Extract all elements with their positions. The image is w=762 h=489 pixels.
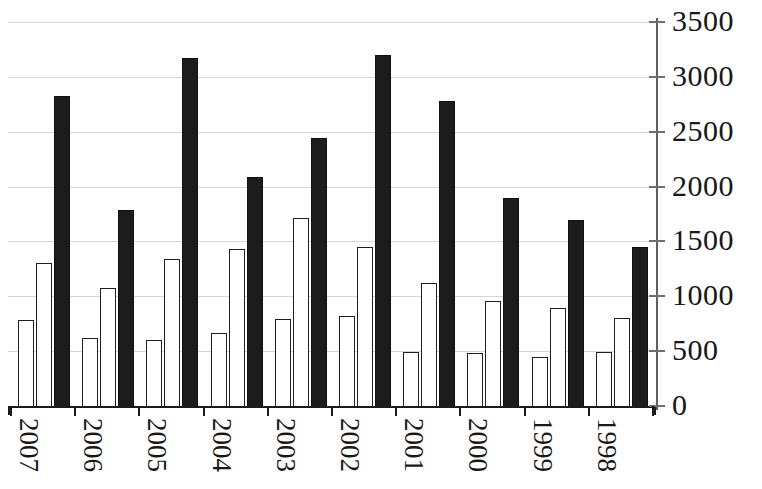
bar	[532, 357, 548, 406]
bar	[229, 249, 245, 406]
bar	[247, 177, 263, 406]
bar	[164, 259, 180, 406]
bar	[118, 210, 134, 406]
bar	[550, 308, 566, 406]
x-axis-tick-label-text: 1999	[529, 418, 556, 472]
x-axis-tick-label-text: 2005	[143, 418, 170, 472]
bar	[467, 353, 483, 406]
x-axis-tick-label-text: 2000	[464, 418, 491, 472]
bar	[375, 55, 391, 406]
x-axis-tick-label-text: 2002	[336, 418, 363, 472]
bar	[439, 101, 455, 406]
x-axis-tick-label: 2001	[401, 418, 431, 488]
bar	[614, 318, 630, 406]
y-axis-tick-label: 0	[672, 390, 688, 420]
y-axis-tick-label: 500	[672, 335, 719, 365]
bar	[357, 247, 373, 406]
y-axis-line	[656, 18, 658, 410]
y-axis-tick-label: 2000	[672, 171, 734, 201]
bar	[146, 340, 162, 406]
x-axis-tick-label-text: 2006	[79, 418, 106, 472]
bar	[36, 263, 52, 406]
x-axis-tick-label: 2005	[144, 418, 174, 488]
plot-area	[8, 22, 656, 406]
x-axis-tick-label: 2007	[16, 418, 46, 488]
y-axis-tick-label: 1000	[672, 280, 734, 310]
x-axis-tick-label-text: 2001	[400, 418, 427, 472]
x-axis-tick-label-text: 2007	[15, 418, 42, 472]
bar	[275, 319, 291, 406]
x-axis-line	[8, 406, 656, 408]
bar	[82, 338, 98, 406]
bar	[54, 96, 70, 406]
y-axis-tick-label: 2500	[672, 116, 734, 146]
x-axis-tick-label: 2004	[209, 418, 239, 488]
x-axis-tick-label: 2003	[273, 418, 303, 488]
bar	[485, 301, 501, 406]
bar	[503, 198, 519, 406]
bar	[339, 316, 355, 406]
bar	[293, 218, 309, 406]
bar	[403, 352, 419, 406]
bar-chart: 0500100015002000250030003500 20072006200…	[0, 0, 762, 489]
y-axis-tick-label: 3000	[672, 61, 734, 91]
x-axis-tick-label: 2000	[465, 418, 495, 488]
x-axis-tick-label: 1999	[530, 418, 560, 488]
y-axis-tick-label: 1500	[672, 225, 734, 255]
y-axis-tick-label: 3500	[672, 6, 734, 36]
x-axis-tick-label-text: 2003	[272, 418, 299, 472]
bar	[596, 352, 612, 406]
bar	[100, 288, 116, 406]
x-axis-tick-label: 1998	[594, 418, 624, 488]
x-axis-tick-label: 2002	[337, 418, 367, 488]
bar	[632, 247, 648, 406]
x-axis-tick-label-text: 2004	[208, 418, 235, 472]
x-axis-tick-label-text: 1998	[593, 418, 620, 472]
x-axis-tick-label: 2006	[80, 418, 110, 488]
bar	[182, 58, 198, 406]
bar	[18, 320, 34, 406]
bar	[568, 220, 584, 407]
bar	[421, 283, 437, 406]
bars-layer	[8, 22, 656, 406]
x-axis-left-cap	[8, 406, 10, 415]
bar	[311, 138, 327, 406]
bar	[211, 333, 227, 407]
